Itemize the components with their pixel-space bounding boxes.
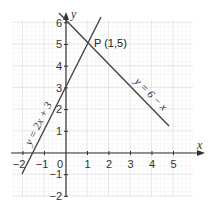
svg-text:4: 4 [149,158,155,170]
svg-text:6: 6 [56,17,62,29]
point-p-label: P (1,5) [94,37,127,49]
graph: −2 −1 0 1 2 3 4 5 6 5 4 3 2 1 −1 −2 y x … [0,0,211,209]
svg-text:−1: −1 [36,158,49,170]
svg-text:4: 4 [56,60,62,72]
svg-text:5: 5 [56,38,62,50]
svg-text:5: 5 [170,158,176,170]
svg-text:−2: −2 [13,158,26,170]
svg-text:1: 1 [56,125,62,137]
svg-text:2: 2 [106,158,112,170]
svg-text:−1: −1 [49,168,62,180]
svg-text:1: 1 [84,158,90,170]
x-axis-label: x [196,138,203,152]
y-axis-label: y [70,7,77,21]
svg-text:3: 3 [127,158,133,170]
svg-text:−2: −2 [49,190,62,202]
svg-text:3: 3 [56,82,62,94]
